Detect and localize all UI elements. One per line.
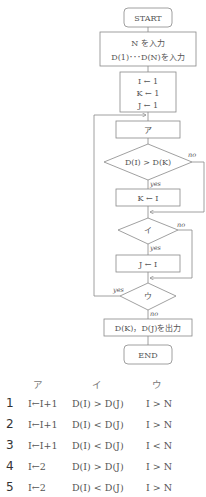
choice-a-value: I←I+1 (28, 398, 57, 409)
input-line-2: D(1)･･･D(N)を入力 (111, 52, 184, 62)
choice-number: 2 (6, 417, 14, 431)
choice-i-value: D(I) < D(J) (72, 419, 124, 430)
choice-i-value: D(I) < D(J) (72, 440, 124, 451)
choice-i-value: D(I) > D(J) (72, 398, 124, 409)
choice-row-4[interactable]: 4 I←2 D(I) > D(J) I > N (0, 461, 206, 482)
decision-dik-no: no (188, 151, 196, 159)
choices-header: ア イ ウ (0, 377, 206, 398)
decision-i-no: no (177, 221, 185, 229)
choice-number: 5 (6, 480, 14, 494)
init-line-2: K ← 1 (137, 89, 160, 98)
assign-j-label: J ← I (138, 260, 157, 269)
start-terminal: START (124, 8, 172, 27)
choice-a-value: I←2 (28, 482, 46, 493)
choice-i-value: D(I) < D(J) (72, 482, 124, 493)
choice-i-value: D(I) > D(J) (72, 461, 124, 472)
choice-row-5[interactable]: 5 I←2 D(I) < D(J) I > N (0, 482, 206, 497)
input-line-1: N を入力 (131, 38, 165, 48)
init-line-3: J ← 1 (137, 101, 158, 110)
choice-row-2[interactable]: 2 I←I+1 D(I) < D(J) I > N (0, 419, 206, 440)
choice-number: 4 (6, 459, 14, 473)
choice-a-value: I←I+1 (28, 440, 57, 451)
choice-number: 3 (6, 438, 14, 452)
decision-u-label: ウ (144, 292, 152, 301)
choice-u-value: I > N (146, 398, 172, 409)
box-a-label: ア (144, 126, 152, 135)
decision-u-yes: yes (112, 286, 125, 294)
choice-u-value: I > N (146, 461, 172, 472)
input-process-box: N を入力 D(1)･･･D(N)を入力 (100, 32, 196, 66)
header-i: イ (92, 377, 102, 391)
choice-u-value: I > N (146, 419, 172, 430)
init-line-1: I ← 1 (138, 77, 158, 86)
assign-j-box: J ← I (116, 255, 180, 272)
choice-number: 1 (6, 396, 14, 410)
end-terminal: END (124, 345, 172, 364)
init-process-box: I ← 1 K ← 1 J ← 1 (120, 72, 176, 112)
decision-i-yes: yes (149, 244, 162, 252)
flowchart: START N を入力 D(1)･･･D(N)を入力 I ← 1 K ← 1 J… (0, 0, 206, 378)
choice-u-value: I < N (146, 440, 172, 451)
decision-i-label: イ (144, 226, 152, 235)
decision-dik-label: D(I) > D(K) (125, 158, 171, 167)
output-label: D(K)，D(J)を出力 (115, 323, 182, 333)
end-label: END (138, 351, 157, 360)
output-box: D(K)，D(J)を出力 (104, 319, 192, 336)
assign-k-box: K ← I (116, 189, 180, 206)
choice-a-value: I←2 (28, 461, 46, 472)
process-box-a: ア (116, 121, 180, 138)
choice-u-value: I > N (146, 482, 172, 493)
decision-u: ウ yes no (112, 283, 176, 318)
decision-u-no: no (150, 310, 158, 318)
choice-row-1[interactable]: 1 I←I+1 D(I) > D(J) I > N (0, 398, 206, 419)
decision-dik: D(I) > D(K) no yes (104, 144, 196, 188)
header-a: ア (33, 377, 43, 391)
answer-choices-table: ア イ ウ 1 I←I+1 D(I) > D(J) I > N 2 I←I+1 … (0, 377, 206, 497)
decision-dik-yes: yes (149, 180, 162, 188)
start-label: START (134, 14, 162, 23)
assign-k-label: K ← I (138, 194, 159, 203)
header-u: ウ (152, 377, 162, 391)
choice-row-3[interactable]: 3 I←I+1 D(I) < D(J) I < N (0, 440, 206, 461)
choice-a-value: I←I+1 (28, 419, 57, 430)
decision-i: イ no yes (118, 218, 185, 252)
